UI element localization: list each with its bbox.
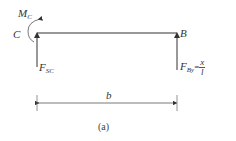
- point-b-label: B: [180, 28, 187, 39]
- right-force-label: FBy=xl: [180, 58, 205, 77]
- point-c-label: C: [13, 29, 20, 40]
- moment-label: MC: [18, 8, 32, 21]
- moment-arc-icon: [28, 19, 40, 42]
- figure-caption: (a): [98, 121, 109, 132]
- left-force-label: FSC: [39, 62, 54, 75]
- dimension-label: b: [106, 90, 112, 101]
